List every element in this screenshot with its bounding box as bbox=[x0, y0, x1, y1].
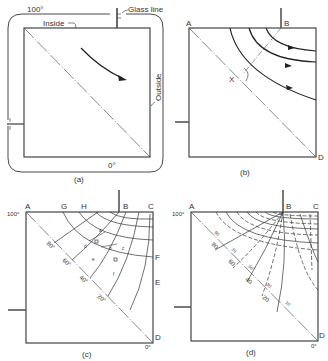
label-A: A bbox=[189, 202, 195, 211]
flow-line-d bbox=[310, 214, 312, 270]
panel-b-normal-line bbox=[243, 28, 281, 74]
label-100: 100° bbox=[172, 211, 185, 217]
panel-a-caption: (a) bbox=[74, 175, 84, 184]
cell-label-c: c bbox=[122, 246, 125, 251]
cell-marker bbox=[114, 258, 117, 261]
isotherm-20 bbox=[110, 212, 153, 219]
glass-line-label: Glass line bbox=[128, 5, 164, 14]
cell-label-e: e bbox=[92, 257, 95, 262]
heat-flow-arrowhead-icon bbox=[118, 75, 127, 81]
right-angle-arc bbox=[244, 68, 248, 81]
panel-d-caption: (d) bbox=[246, 348, 256, 357]
label-A: A bbox=[186, 19, 192, 28]
dimension-arrow bbox=[89, 232, 105, 241]
panel-a: 100° Inside Glass line Outside 0° (a) bbox=[7, 5, 164, 184]
symmetry-line bbox=[24, 28, 150, 157]
label-B: B bbox=[286, 202, 291, 211]
panel-d-diagonal bbox=[191, 212, 318, 341]
label-B: B bbox=[123, 202, 128, 211]
label-X: X bbox=[229, 75, 235, 84]
panel-c-diagonal bbox=[26, 212, 153, 343]
inside-label: Inside bbox=[43, 19, 65, 28]
outside-label: Outside bbox=[154, 73, 163, 101]
label-E: E bbox=[155, 278, 160, 287]
flow-line-c2 bbox=[72, 212, 119, 260]
isotherm-d bbox=[216, 212, 318, 250]
flow-arrowhead-icon bbox=[285, 63, 292, 68]
panel-b-caption: (b) bbox=[240, 168, 250, 177]
outside-boundary bbox=[8, 14, 163, 172]
label-D: D bbox=[318, 153, 324, 162]
label-C: C bbox=[148, 202, 154, 211]
flow-line-2 bbox=[249, 28, 316, 62]
label-D: D bbox=[319, 331, 325, 340]
isotherm-40 bbox=[96, 212, 153, 227]
label-F: F bbox=[155, 253, 160, 262]
flow-line-d bbox=[300, 214, 318, 262]
isotherm-label-40: 40 bbox=[244, 276, 253, 285]
outside-leader bbox=[151, 102, 155, 106]
flow-line-c5 bbox=[130, 214, 150, 310]
panel-b: A B X D (b) bbox=[175, 8, 324, 177]
isotherm-label-10: 10 bbox=[284, 300, 291, 307]
cell-marker bbox=[95, 240, 98, 243]
label-C: C bbox=[313, 202, 319, 211]
label-0: 0° bbox=[145, 344, 151, 350]
isotherm-label-90: 90 bbox=[213, 230, 220, 237]
flow-line-c1 bbox=[54, 212, 98, 243]
isotherm-label-80: 80 bbox=[210, 241, 219, 250]
isotherm-d bbox=[226, 212, 318, 243]
label-A: A bbox=[25, 202, 31, 211]
flow-line-c3 bbox=[90, 212, 126, 278]
label-0: 0° bbox=[311, 343, 317, 349]
panel-c: a b c d e f 100° A G H B C F E D 0° 80° … bbox=[7, 190, 161, 359]
label-H: H bbox=[81, 202, 87, 211]
label-G: G bbox=[61, 202, 67, 211]
figure: 100° Inside Glass line Outside 0° (a) A … bbox=[0, 0, 328, 361]
bottom-temp-label: 0° bbox=[108, 161, 116, 170]
label-D: D bbox=[155, 333, 161, 342]
label-100: 100° bbox=[7, 211, 20, 217]
panel-d: 100° A B C D 0° 90 80 70 60 50 40 30 20 … bbox=[172, 190, 325, 357]
heat-flow-arrow bbox=[81, 48, 122, 78]
top-temp-label: 100° bbox=[27, 5, 44, 14]
isotherm-label-20: 20 bbox=[261, 294, 270, 303]
inside-leader bbox=[68, 23, 76, 28]
cell-label-f: f bbox=[113, 272, 115, 277]
label-B: B bbox=[284, 19, 289, 28]
panel-c-caption: (c) bbox=[82, 350, 92, 359]
